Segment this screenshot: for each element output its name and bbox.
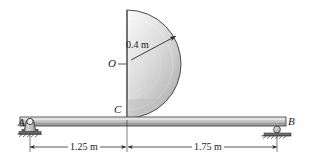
label-contact-point-c: C — [114, 104, 121, 115]
semicircular-plate — [127, 10, 181, 118]
roller-circle — [274, 126, 281, 133]
label-support-b: B — [288, 116, 295, 127]
label-support-a: A — [18, 117, 25, 128]
pin-foot-left — [22, 129, 25, 132]
label-radius-dimension: 0.4 m — [126, 40, 149, 50]
label-center-o: O — [108, 58, 116, 69]
pin-foot-right — [36, 129, 39, 132]
ground-hatch-b — [262, 136, 292, 139]
roller-support-b — [262, 126, 292, 139]
beam-body — [20, 117, 286, 126]
pin-circle — [27, 118, 33, 124]
dimension-label-left-span: 1.25 m — [68, 142, 100, 152]
dimension-label-right-span: 1.75 m — [192, 142, 224, 152]
beam — [20, 117, 286, 126]
statics-diagram-figure: A B C O 0.4 m 1.25 m 1.75 m — [0, 0, 310, 166]
diagram-canvas — [0, 0, 310, 166]
